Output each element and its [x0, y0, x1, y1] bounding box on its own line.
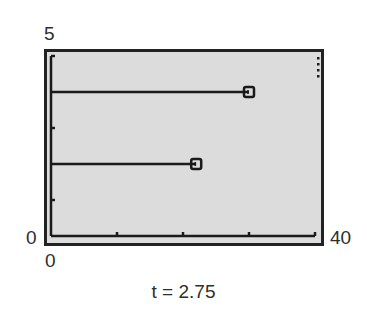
busy-indicator-icon — [317, 57, 320, 60]
plot-area — [0, 0, 367, 313]
busy-indicator-icon — [317, 63, 320, 66]
busy-indicator-icon — [317, 75, 320, 78]
busy-indicator-icon — [317, 69, 320, 72]
time-caption: t = 2.75 — [0, 281, 367, 303]
